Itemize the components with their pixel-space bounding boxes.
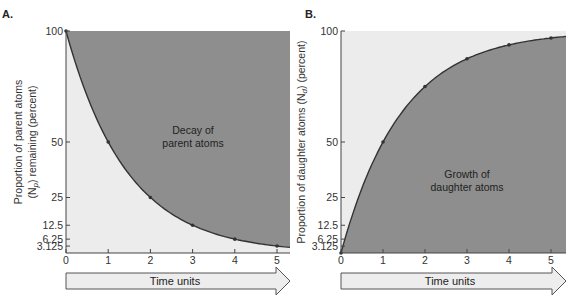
panel-a-label: A.	[2, 8, 13, 20]
panel-b-label: B.	[305, 8, 316, 20]
x-tick-label: 0	[338, 254, 344, 266]
x-tick-label: 2	[147, 254, 153, 266]
data-point	[549, 36, 553, 40]
y-tick-label: 12.5	[43, 219, 64, 231]
y-tick-label: 50	[51, 136, 63, 148]
data-point	[275, 244, 279, 248]
chart-b-x-label: Time units	[425, 275, 476, 287]
y-tick-label: 100	[45, 25, 63, 37]
x-tick-label: 3	[464, 254, 470, 266]
x-tick-label: 1	[380, 254, 386, 266]
data-point	[106, 140, 110, 144]
x-tick-label: 5	[548, 254, 554, 266]
y-tick-label: 25	[51, 191, 63, 203]
x-tick-label: 4	[506, 254, 512, 266]
figure: A. 100502512.56.253.125 012345 Proportio…	[0, 0, 578, 301]
y-tick-label: 50	[326, 136, 338, 148]
data-point	[233, 237, 237, 241]
chart-a-y-label-line2: (Np) remaining (percent)	[26, 86, 40, 199]
chart-b-y-ticks: 100502512.56.253.125	[312, 25, 345, 252]
y-tick-label: 12.5	[318, 219, 339, 231]
x-tick-label: 0	[63, 254, 69, 266]
chart-a-y-ticks: 100502512.56.253.125	[37, 25, 70, 252]
chart-b: B. 100502512.56.253.125 012345 Proportio…	[295, 8, 566, 295]
data-point	[149, 196, 153, 200]
data-point	[507, 43, 511, 47]
y-tick-label: 25	[326, 191, 338, 203]
x-tick-label: 4	[232, 254, 238, 266]
chart-b-y-label: Proportion of daughter atoms (Nd) (perce…	[295, 41, 309, 244]
y-tick-label: 3.125	[37, 240, 63, 252]
chart-a: A. 100502512.56.253.125 012345 Proportio…	[2, 8, 290, 295]
chart-b-area-label-line2: daughter atoms	[431, 181, 504, 193]
chart-b-area-label-line1: Growth of	[444, 168, 490, 180]
chart-a-x-label: Time units	[150, 275, 201, 287]
x-tick-label: 3	[190, 254, 196, 266]
data-point	[465, 57, 469, 61]
x-tick-label: 2	[422, 254, 428, 266]
chart-a-y-label-line1: Proportion of parent atoms	[12, 80, 24, 204]
data-point	[423, 85, 427, 89]
x-tick-label: 5	[274, 254, 280, 266]
data-point	[381, 140, 385, 144]
x-tick-label: 1	[105, 254, 111, 266]
data-point	[191, 223, 195, 227]
y-tick-label: 100	[320, 25, 338, 37]
chart-a-area-label-line2: parent atoms	[162, 137, 223, 149]
y-tick-label: 3.125	[312, 240, 338, 252]
chart-a-area-label-line1: Decay of	[172, 124, 214, 136]
